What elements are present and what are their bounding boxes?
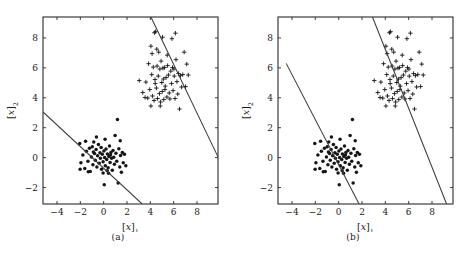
scatter-plot-a: −4−202468−202468[x]1[x]2 — [0, 0, 236, 232]
data-point-plus — [409, 57, 413, 61]
data-point-dot — [357, 161, 361, 165]
data-point-dot — [336, 153, 340, 157]
data-point-plus — [405, 36, 409, 40]
data-point-plus — [379, 80, 383, 84]
data-point-dot — [124, 164, 128, 168]
data-point-dot — [119, 154, 123, 158]
plot-frame — [278, 17, 453, 204]
data-point-plus — [408, 96, 412, 100]
x-tick-label: 4 — [147, 207, 153, 217]
data-point-dot — [99, 146, 103, 150]
y-tick-label: 8 — [267, 33, 273, 43]
data-point-dot — [117, 147, 121, 151]
data-point-plus — [389, 86, 393, 90]
data-layer — [286, 17, 446, 204]
data-point-plus — [153, 81, 157, 85]
data-point-dot — [330, 135, 334, 139]
data-point-dot — [79, 161, 83, 165]
data-point-dot — [114, 151, 118, 155]
x-tick-label: 4 — [382, 207, 388, 217]
svg-text:[x]2: [x]2 — [5, 102, 20, 119]
data-point-dot — [111, 149, 115, 153]
data-point-plus — [146, 61, 150, 65]
data-point-plus — [378, 95, 382, 99]
x-tick-label: 0 — [336, 207, 342, 217]
upper-right-boundary — [151, 17, 218, 157]
data-point-dot — [313, 142, 317, 146]
data-point-dot — [94, 148, 98, 152]
data-point-plus — [416, 72, 420, 76]
x-tick-label: 8 — [429, 207, 435, 217]
y-tick-label: 8 — [32, 33, 38, 43]
data-point-dot — [343, 144, 347, 148]
data-point-plus — [177, 107, 181, 111]
data-point-dot — [335, 168, 339, 172]
data-point-dot — [349, 151, 353, 155]
data-point-plus — [392, 91, 396, 95]
data-point-plus — [384, 104, 388, 108]
data-point-dot — [113, 134, 117, 138]
data-point-dot — [91, 163, 95, 167]
data-point-dot — [319, 139, 323, 143]
data-point-plus — [154, 86, 158, 90]
subplot-caption-b: (b) — [235, 232, 471, 242]
svg-text:[x]2: [x]2 — [240, 102, 255, 119]
data-point-plus — [150, 94, 154, 98]
data-point-plus — [155, 64, 159, 68]
data-point-plus — [418, 84, 422, 88]
data-point-plus — [381, 96, 385, 100]
subplot-panel-a: −4−202468−202468[x]1[x]2 (a) — [0, 0, 236, 256]
data-point-dot — [334, 146, 338, 150]
data-point-dot — [101, 160, 105, 164]
data-point-dot — [346, 149, 350, 153]
data-point-dot — [118, 165, 122, 169]
data-point-dot — [103, 183, 107, 187]
data-point-plus — [181, 72, 185, 76]
data-point-plus — [172, 74, 176, 78]
data-point-dot — [353, 165, 357, 169]
data-point-dot — [122, 161, 126, 165]
upper-right-boundary — [373, 17, 447, 204]
data-point-dot — [351, 118, 355, 122]
data-point-dot — [343, 161, 347, 165]
data-point-plus — [385, 72, 389, 76]
axis-ticks: −4−202468−202468 — [25, 17, 218, 217]
data-point-dot — [113, 163, 117, 167]
data-point-plus — [159, 59, 163, 63]
figure-container: −4−202468−202468[x]1[x]2 (a) −4−202468−2… — [0, 0, 471, 256]
data-layer — [43, 17, 218, 204]
data-point-plus — [141, 90, 145, 94]
y-tick-label: 4 — [267, 93, 273, 103]
data-point-dot — [90, 145, 94, 149]
y-tick-label: −2 — [25, 183, 38, 193]
data-point-dot — [351, 181, 355, 185]
data-point-dot — [95, 165, 99, 169]
data-point-dot — [112, 156, 116, 160]
data-point-plus — [171, 88, 175, 92]
data-point-plus — [414, 85, 418, 89]
data-point-plus — [153, 77, 157, 81]
data-point-plus — [149, 104, 153, 108]
data-point-dot — [325, 155, 329, 159]
data-point-dot — [352, 147, 356, 151]
data-point-dot — [115, 160, 119, 164]
data-point-dot — [314, 161, 318, 165]
data-point-dot — [116, 118, 120, 122]
data-point-plus — [383, 87, 387, 91]
data-point-dot — [358, 153, 362, 157]
data-point-plus — [158, 100, 162, 104]
x-tick-label: 2 — [359, 207, 365, 217]
data-point-plus — [410, 79, 414, 83]
x-tick-label: 8 — [194, 207, 200, 217]
data-point-dot — [350, 160, 354, 164]
data-point-dot — [105, 158, 109, 162]
x-tick-label: −4 — [50, 207, 64, 217]
data-point-plus — [174, 57, 178, 61]
data-point-dot — [83, 167, 87, 171]
data-point-plus — [148, 87, 152, 91]
data-point-plus — [179, 85, 183, 89]
y-tick-label: 2 — [32, 123, 38, 133]
data-point-plus — [150, 72, 154, 76]
data-point-dot — [346, 169, 350, 173]
data-point-dot — [99, 157, 103, 161]
